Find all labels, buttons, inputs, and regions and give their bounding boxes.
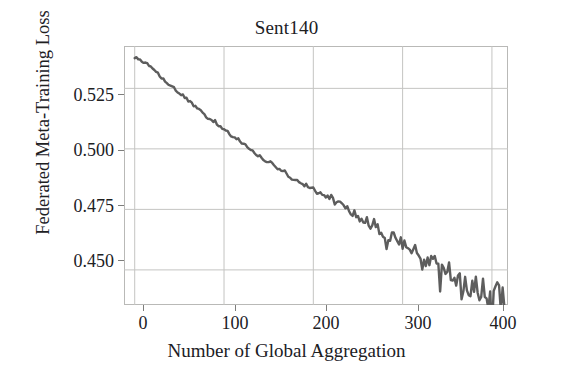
x-tick-label-0: 0 [108, 313, 178, 334]
x-tick-label-300: 300 [383, 313, 453, 334]
y-tick-label-0475: 0.475 [40, 196, 114, 217]
figure-canvas: Sent140 Federated Meta-Training Loss 0.5… [0, 0, 573, 389]
x-tickmark-100 [235, 305, 236, 311]
y-tick-label-0525: 0.525 [40, 85, 114, 106]
x-tickmark-0 [143, 305, 144, 311]
x-tickmark-200 [326, 305, 327, 311]
y-tick-label-0450: 0.450 [40, 251, 114, 272]
x-tickmark-300 [418, 305, 419, 311]
chart-title: Sent140 [0, 17, 573, 39]
x-tick-label-100: 100 [200, 313, 270, 334]
loss-line-series [135, 57, 506, 305]
plot-area [124, 46, 508, 305]
x-axis-title: Number of Global Aggregation [0, 340, 573, 362]
loss-curve-plot [124, 46, 508, 305]
x-tick-label-400: 400 [468, 313, 538, 334]
y-tick-label-0500: 0.500 [40, 140, 114, 161]
x-tickmark-400 [503, 305, 504, 311]
x-tick-label-200: 200 [291, 313, 361, 334]
